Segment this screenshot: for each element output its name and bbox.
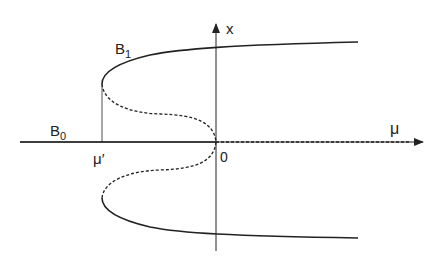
fold-point-label: μ′ xyxy=(93,150,105,167)
mu-axis-label: μ xyxy=(390,120,399,137)
branch-b0-label: B0 xyxy=(50,122,66,142)
branch-b1-label: B1 xyxy=(115,40,131,60)
diagram-canvas: x μ 0 μ′ B0 B1 xyxy=(0,0,445,263)
branch-b1-lower-stable xyxy=(102,198,358,238)
x-axis-label: x xyxy=(226,20,234,37)
branch-lower-unstable xyxy=(102,142,216,198)
bifurcation-figure: x μ 0 μ′ B0 B1 xyxy=(0,0,445,263)
branch-b1-upper-stable xyxy=(102,42,358,84)
origin-label: 0 xyxy=(220,149,228,165)
branch-upper-unstable xyxy=(102,84,216,142)
